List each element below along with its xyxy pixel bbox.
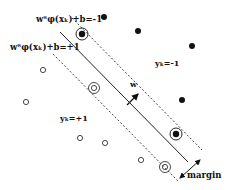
upper-margin-line bbox=[72, 18, 202, 150]
class-negative-label: yₖ=-1 bbox=[154, 58, 179, 68]
filled-point bbox=[179, 97, 185, 103]
lower-margin-label: wᵀφ(xₖ)+b=+1 bbox=[9, 42, 80, 52]
w-label: w bbox=[129, 79, 138, 89]
w-vector-arrow bbox=[127, 94, 138, 105]
class-positive-label: yₖ=+1 bbox=[59, 113, 88, 123]
filled-point bbox=[135, 28, 141, 34]
open-point bbox=[138, 157, 143, 162]
support-vector-filled bbox=[76, 28, 88, 40]
support-vector-open bbox=[160, 162, 171, 173]
open-point bbox=[40, 67, 45, 72]
open-point bbox=[77, 135, 82, 140]
open-point bbox=[23, 99, 28, 104]
open-point bbox=[102, 140, 107, 145]
filled-point bbox=[189, 43, 195, 49]
upper-margin-label: wᵀφ(xₖ)+b=-1 bbox=[35, 14, 102, 24]
support-vector-filled bbox=[170, 128, 182, 140]
support-vector-open bbox=[89, 83, 100, 94]
svm-diagram: wᵀφ(xₖ)+b=-1 wᵀφ(xₖ)+b=+1 w yₖ=-1 yₖ=+1 … bbox=[0, 0, 227, 190]
margin-label: margin bbox=[187, 170, 221, 180]
